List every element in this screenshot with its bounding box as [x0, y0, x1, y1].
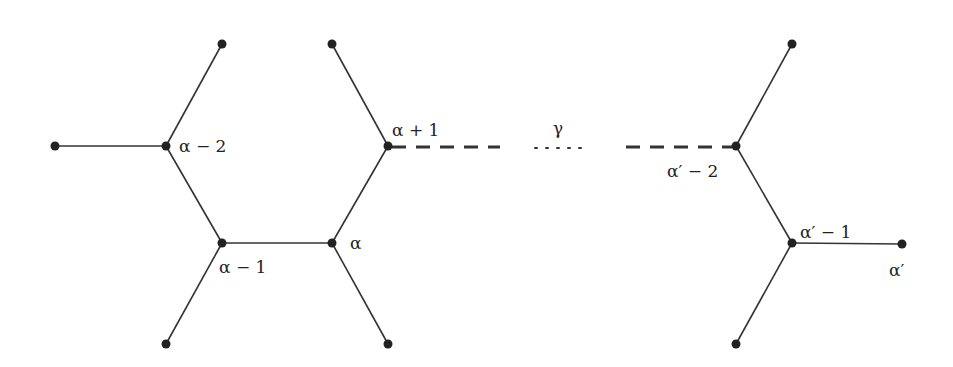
- edge-a-2-to-a-1: [166, 146, 222, 243]
- node-a': [898, 240, 907, 249]
- node-a'-1: [788, 239, 797, 248]
- node-a'-2-top-leaf: [788, 40, 797, 49]
- label-alpha-prime-minus-2: α′ − 2: [667, 163, 718, 180]
- edge-a'-2-to-top-leaf: [736, 44, 792, 146]
- node-a-1: [218, 239, 227, 248]
- node-leaf-left: [51, 142, 60, 151]
- label-gamma: γ: [553, 120, 563, 137]
- node-a'-1-bottom-leaf: [732, 340, 741, 349]
- edge-a-1-to-bottom-leaf: [166, 243, 222, 344]
- solid-edges: [55, 44, 902, 344]
- edge-a-to-a+1: [332, 146, 388, 243]
- node-a+1-top-leaf: [328, 40, 337, 49]
- nodes: [51, 40, 907, 349]
- path-gamma: [392, 147, 732, 148]
- edge-a+1-to-top-leaf: [332, 44, 388, 146]
- label-alpha-minus-1: α − 1: [219, 259, 266, 276]
- edge-a-to-bottom-leaf: [332, 243, 388, 344]
- label-alpha-plus-1: α + 1: [392, 122, 439, 139]
- label-alpha-prime-minus-1: α′ − 1: [800, 224, 851, 241]
- node-a'-2: [732, 142, 741, 151]
- label-alpha-minus-2: α − 2: [179, 138, 226, 155]
- node-a-2: [162, 142, 171, 151]
- node-a+1: [384, 142, 393, 151]
- label-alpha-prime: α′: [889, 262, 904, 279]
- node-a: [328, 239, 337, 248]
- edge-a'-2-to-a'-1: [736, 146, 792, 243]
- graph-diagram: [0, 0, 953, 367]
- edge-a'-1-to-bottom-leaf: [736, 243, 792, 344]
- node-a-2-top-leaf: [218, 40, 227, 49]
- edge-a-2-to-top-leaf: [166, 44, 222, 146]
- edge-a'-1-to-a': [792, 243, 902, 244]
- node-a-1-bottom-leaf: [162, 340, 171, 349]
- label-alpha: α: [350, 235, 361, 252]
- node-a-bottom-leaf: [384, 340, 393, 349]
